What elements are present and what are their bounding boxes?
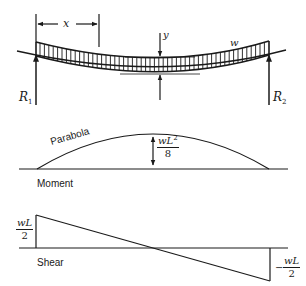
shear-title: Shear	[37, 258, 64, 268]
shear-left-label: wL 2	[16, 218, 33, 241]
shear-right-label: wL 2	[283, 256, 300, 279]
y-label: y	[163, 30, 169, 40]
w-label: w	[230, 38, 239, 48]
max-moment-label: wL2 8	[157, 135, 179, 159]
beam-diagram	[0, 0, 306, 286]
r1-label: R1	[19, 91, 33, 106]
moment-title: Moment	[37, 179, 73, 189]
r2-label: R2	[273, 91, 287, 106]
x-label: x	[63, 18, 69, 29]
